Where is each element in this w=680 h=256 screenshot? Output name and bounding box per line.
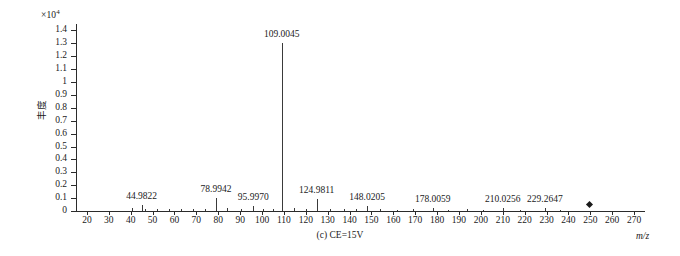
spectrum-peak-minor [483, 210, 484, 211]
spectrum-peak-minor [306, 209, 307, 211]
y-axis-tick-label: 0 [62, 206, 67, 216]
spectrum-peak-minor [380, 209, 381, 211]
y-axis-tick-label: 1.2 [55, 51, 67, 61]
spectrum-peak [545, 208, 546, 211]
y-axis-tick [71, 56, 76, 57]
spectrum-peak-minor [157, 209, 158, 211]
spectrum-peak-minor [193, 209, 194, 211]
y-axis-tick-label: 0.8 [55, 103, 67, 113]
spectrum-peak [142, 205, 143, 211]
spectrum-peak-minor [273, 209, 274, 211]
y-axis-line [76, 24, 77, 211]
spectrum-peak-label: 95.9970 [218, 193, 288, 203]
spectrum-peak-minor [145, 209, 146, 211]
y-axis-tick [71, 185, 76, 186]
spectrum-peak [216, 198, 217, 211]
y-axis-tick [71, 43, 76, 44]
spectrum-peak-minor [448, 210, 449, 211]
y-axis-tick [71, 134, 76, 135]
y-axis-tick [71, 95, 76, 96]
y-axis-tick-label: 0.4 [55, 154, 67, 164]
spectrum-peak-minor [169, 209, 170, 211]
spectrum-peak-minor [132, 208, 133, 211]
spectrum-peak [433, 208, 434, 211]
y-axis-tick [71, 108, 76, 109]
y-axis-tick-label: 0.2 [55, 180, 67, 190]
y-axis-tick-label: 0.9 [55, 90, 67, 100]
spectrum-peak [317, 199, 318, 211]
y-axis-tick-label: 1 [62, 77, 67, 87]
spectrum-peak [367, 206, 368, 211]
spectrum-peak-minor [294, 208, 295, 211]
spectrum-peak-minor [356, 209, 357, 211]
y-axis-tick [71, 82, 76, 83]
spectrum-peak-label: 178.0059 [398, 195, 468, 205]
figure-caption: (c) CE=15V [0, 230, 680, 240]
y-axis-title: 丰度 [34, 90, 48, 130]
mass-spectrum-figure: ×104 丰度 00.10.20.30.40.50.60.70.80.911.1… [0, 0, 680, 256]
y-axis-tick [71, 198, 76, 199]
spectrum-peak-minor [560, 210, 561, 211]
spectrum-peak [503, 208, 504, 211]
spectrum-peak-label: 148.0205 [332, 193, 402, 203]
spectrum-peak-label: 44.9822 [107, 192, 177, 202]
y-axis-tick-label: 0.6 [55, 129, 67, 139]
spectrum-peak-minor [330, 209, 331, 211]
y-axis-exponent-power: 4 [56, 8, 60, 16]
spectrum-peak-minor [397, 210, 398, 211]
spectrum-peak-minor [241, 209, 242, 211]
spectrum-peak-label: 109.0045 [247, 30, 317, 40]
x-axis-line [76, 211, 645, 212]
spectrum-peak-minor [263, 209, 264, 211]
y-axis-tick-label: 0.5 [55, 142, 67, 152]
x-axis-tick-label: 270 [614, 216, 654, 226]
spectrum-peak-minor [413, 209, 414, 211]
stray-marker-icon [586, 201, 593, 208]
y-axis-tick-label: 1.3 [55, 38, 67, 48]
spectrum-peak-minor [181, 209, 182, 211]
y-axis-tick [71, 147, 76, 148]
spectrum-peak-label: 229.2647 [510, 195, 580, 205]
y-axis-tick-label: 1.1 [55, 64, 67, 74]
y-axis-tick [71, 159, 76, 160]
y-axis-tick-label: 1.4 [55, 25, 67, 35]
spectrum-peak [253, 206, 254, 211]
spectrum-peak-minor [467, 209, 468, 211]
y-axis-tick-label: 0.3 [55, 167, 67, 177]
spectrum-peak-minor [205, 209, 206, 211]
y-axis-exponent-prefix: ×10 [41, 10, 56, 20]
y-axis-tick-label: 0.7 [55, 116, 67, 126]
y-axis-tick [71, 30, 76, 31]
spectrum-peak-minor [520, 210, 521, 211]
y-axis-tick-label: 0.1 [55, 193, 67, 203]
y-axis-tick [71, 121, 76, 122]
spectrum-peak-minor [227, 208, 228, 211]
y-axis-exponent: ×104 [41, 8, 60, 20]
spectrum-peak-minor [344, 209, 345, 211]
y-axis-tick [71, 69, 76, 70]
y-axis-tick [71, 172, 76, 173]
